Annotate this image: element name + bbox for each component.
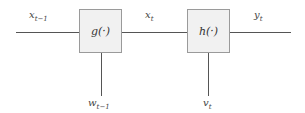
- output-line: [230, 32, 291, 33]
- label-output: yt: [254, 9, 262, 23]
- label-middle: xt: [145, 9, 153, 23]
- label-input: xt−1: [29, 9, 48, 23]
- noise-h-line: [208, 52, 209, 96]
- block-g: g(·): [79, 9, 122, 53]
- input-line: [16, 32, 79, 33]
- middle-line: [122, 32, 187, 33]
- label-noise-h: vt: [203, 97, 211, 111]
- block-g-label: g(·): [91, 25, 110, 38]
- noise-g-line: [101, 52, 102, 96]
- label-noise-g: wt−1: [88, 97, 110, 111]
- block-h: h(·): [187, 9, 230, 53]
- block-h-label: h(·): [199, 25, 218, 38]
